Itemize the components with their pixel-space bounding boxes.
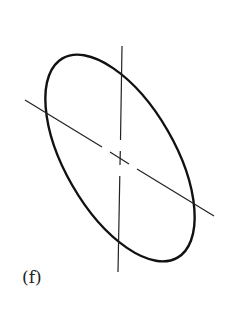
diagonal-centerline-right: [137, 169, 214, 216]
vertical-centerline-upper: [121, 46, 123, 140]
vertical-centerline-lower: [118, 176, 120, 272]
diagonal-centerline-left: [25, 100, 102, 147]
figure-label: (f): [22, 267, 42, 287]
ellipse-diagram: [0, 0, 233, 309]
